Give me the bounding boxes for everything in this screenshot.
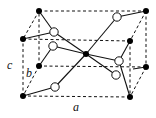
open-atom (115, 57, 123, 65)
open-atom (112, 71, 120, 79)
corner-atom (36, 63, 42, 69)
cell-edge (130, 67, 146, 97)
corner-atom (36, 8, 42, 14)
axis-label-a: a (73, 100, 79, 114)
cell-edge (130, 11, 146, 41)
bond-line (86, 17, 117, 54)
corner-atom (143, 8, 149, 14)
axis-label-b: b (26, 66, 32, 80)
crystal-structure-diagram: c b a (0, 0, 156, 118)
open-atom (51, 83, 59, 91)
cell-edge (23, 96, 130, 97)
center-atom (83, 51, 89, 57)
unit-cell-svg: c b a (0, 0, 156, 118)
bond-line (55, 54, 86, 87)
cell-edge (23, 39, 130, 41)
open-atom (49, 42, 57, 50)
corner-atom (127, 94, 133, 100)
bond-line (54, 32, 86, 54)
bond-line (23, 87, 55, 96)
open-atom (113, 13, 121, 21)
open-atom (50, 28, 58, 36)
cell-edge (23, 11, 39, 39)
axis-label-c: c (7, 58, 13, 72)
corner-atom (20, 93, 26, 99)
corner-atom (127, 38, 133, 44)
corner-atom (20, 36, 26, 42)
cell-edge (39, 66, 146, 67)
corner-atom (143, 64, 149, 70)
